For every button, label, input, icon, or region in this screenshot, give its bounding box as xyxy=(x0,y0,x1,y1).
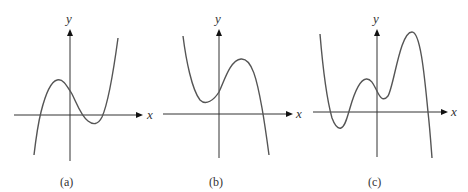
y-axis-arrow-icon xyxy=(67,29,73,36)
x-axis-arrow-icon xyxy=(441,109,448,115)
graph-b: x y (b) xyxy=(163,11,302,189)
graph-c: x y (c) xyxy=(313,11,457,189)
y-axis-label: y xyxy=(371,11,379,26)
x-axis-arrow-icon xyxy=(136,112,143,118)
y-axis-label: y xyxy=(213,11,221,26)
caption-b: (b) xyxy=(209,175,223,189)
graph-a: x y (a) xyxy=(14,11,153,189)
y-axis-arrow-icon xyxy=(374,29,380,36)
x-axis-label: x xyxy=(295,106,302,121)
caption-c: (c) xyxy=(368,175,381,189)
x-axis-label: x xyxy=(450,104,457,119)
x-axis-arrow-icon xyxy=(286,111,293,117)
curve-c xyxy=(320,32,432,158)
curve-b xyxy=(183,36,269,155)
x-axis-label: x xyxy=(146,107,153,122)
polynomial-graphs-figure: x y (a) x y (b) x y (c) xyxy=(0,0,468,192)
caption-a: (a) xyxy=(60,175,73,189)
y-axis-arrow-icon xyxy=(216,29,222,36)
curve-a xyxy=(34,38,118,155)
y-axis-label: y xyxy=(64,11,72,26)
